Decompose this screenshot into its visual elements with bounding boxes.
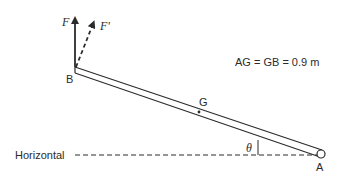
label-horizontal: Horizontal (15, 149, 65, 161)
beam-diagram: F F' B G A θ Horizontal AG = GB = 0.9 m (0, 0, 341, 181)
center-of-gravity-dot (198, 111, 201, 114)
label-point-a: A (316, 161, 324, 173)
dimension-note: AG = GB = 0.9 m (235, 56, 319, 68)
label-force-f-prime: F' (99, 19, 110, 33)
force-f-prime-arrow (76, 24, 93, 67)
label-point-g: G (199, 96, 208, 108)
label-point-b: B (66, 73, 73, 85)
label-angle-theta: θ (246, 141, 252, 155)
hinge-a-icon (317, 150, 325, 158)
label-force-f: F (61, 15, 70, 29)
